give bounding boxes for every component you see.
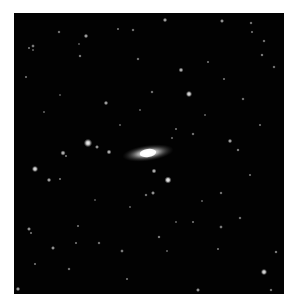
star (262, 39, 266, 43)
star (27, 46, 30, 49)
star (163, 18, 168, 23)
star (274, 250, 278, 254)
star (74, 241, 77, 244)
star (47, 178, 52, 183)
star (178, 67, 183, 72)
star (57, 30, 61, 34)
star (206, 60, 209, 63)
star (249, 21, 253, 25)
galaxy (121, 141, 175, 164)
star (151, 168, 156, 173)
star (219, 191, 223, 195)
star (250, 30, 253, 33)
star (261, 269, 267, 275)
sky-canvas (14, 13, 284, 294)
star (241, 97, 245, 101)
star (150, 90, 154, 94)
star (220, 19, 224, 23)
star (157, 235, 161, 239)
star (58, 177, 61, 180)
star (119, 124, 122, 127)
star (16, 287, 21, 292)
star (260, 53, 264, 57)
star (139, 109, 142, 112)
star (78, 54, 82, 58)
star (258, 123, 261, 126)
star (151, 191, 155, 195)
star (166, 250, 169, 253)
star (191, 220, 194, 223)
star (33, 262, 36, 265)
star (24, 75, 27, 78)
star (136, 57, 140, 61)
star (64, 154, 67, 157)
star (104, 101, 109, 106)
star (196, 288, 200, 292)
star (170, 136, 173, 139)
star (27, 227, 31, 231)
star (43, 111, 46, 114)
star (76, 224, 79, 227)
star (129, 206, 132, 209)
star (201, 200, 204, 203)
star (248, 173, 251, 176)
star (84, 34, 89, 39)
star (59, 94, 62, 97)
star (67, 267, 71, 271)
star (238, 216, 242, 220)
star (236, 148, 240, 152)
star (29, 231, 32, 234)
star (78, 43, 81, 46)
star (106, 149, 111, 154)
star (175, 221, 178, 224)
star (95, 145, 99, 149)
star (186, 91, 192, 97)
star (204, 114, 207, 117)
star (51, 246, 55, 250)
star (32, 49, 35, 52)
star (174, 127, 177, 130)
star (120, 249, 124, 253)
star (97, 241, 101, 245)
star (222, 77, 225, 80)
star (125, 277, 128, 280)
star (144, 193, 148, 197)
star (164, 176, 171, 183)
star (94, 199, 97, 202)
star (31, 44, 35, 48)
star (131, 28, 135, 32)
star (272, 65, 276, 69)
star (269, 288, 273, 292)
star-field-image (14, 13, 284, 294)
star (228, 139, 233, 144)
star (191, 132, 195, 136)
star (216, 247, 219, 250)
star (116, 27, 119, 30)
star (32, 166, 38, 172)
star (219, 225, 223, 229)
star (84, 139, 93, 148)
